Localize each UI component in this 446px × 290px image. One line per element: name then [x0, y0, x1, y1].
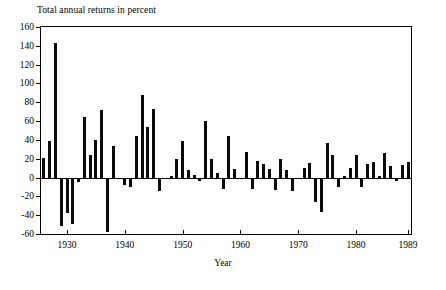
- plot-area: 160140120100806040200-20-40-601930194019…: [40, 26, 412, 235]
- bar: [395, 178, 398, 182]
- y-tick-mark: [36, 196, 41, 197]
- y-tick-label: 140: [20, 41, 34, 51]
- x-tick-mark: [298, 230, 299, 235]
- y-tick-mark: [36, 234, 41, 235]
- y-tick-label: 60: [25, 116, 35, 126]
- bar: [320, 178, 323, 213]
- x-tick-mark: [183, 230, 184, 235]
- y-tick-mark: [36, 121, 41, 122]
- bar: [187, 170, 190, 178]
- y-tick-label: -60: [21, 229, 34, 239]
- y-tick-mark: [36, 178, 41, 179]
- bar: [355, 155, 358, 178]
- chart-figure: Total annual returns in percent 16014012…: [0, 0, 446, 290]
- y-tick-mark: [36, 215, 41, 216]
- bar: [343, 176, 346, 178]
- bar: [118, 178, 121, 180]
- bar: [146, 127, 149, 178]
- bar: [337, 178, 340, 187]
- y-tick-label: 100: [20, 78, 34, 88]
- bar: [181, 141, 184, 178]
- bar: [291, 178, 294, 191]
- bar: [383, 153, 386, 177]
- x-axis-label: Year: [0, 258, 446, 268]
- bar: [158, 178, 161, 191]
- bar: [285, 170, 288, 178]
- y-tick-mark: [36, 159, 41, 160]
- zero-baseline: [41, 178, 411, 179]
- bar: [256, 161, 259, 178]
- x-tick-label: 1970: [289, 240, 308, 250]
- bar: [326, 143, 329, 178]
- y-tick-label: 20: [25, 154, 35, 164]
- x-tick-label: 1940: [115, 240, 134, 250]
- bar: [262, 164, 265, 177]
- bar: [233, 169, 236, 177]
- bar: [360, 178, 363, 187]
- y-tick-label: 0: [29, 173, 34, 183]
- y-tick-label: 40: [25, 135, 35, 145]
- bar: [83, 117, 86, 177]
- bar: [268, 169, 271, 177]
- bar: [60, 178, 63, 226]
- y-tick-mark: [36, 65, 41, 66]
- bar: [210, 159, 213, 178]
- x-tick-label: 1950: [173, 240, 192, 250]
- bar: [77, 178, 80, 183]
- y-tick-mark: [36, 46, 41, 47]
- bar: [135, 136, 138, 177]
- bar: [303, 168, 306, 177]
- y-tick-mark: [36, 140, 41, 141]
- bar: [193, 175, 196, 178]
- bar: [89, 155, 92, 178]
- bar: [366, 164, 369, 177]
- x-tick-mark: [356, 230, 357, 235]
- bar: [152, 109, 155, 178]
- bar-series: [41, 27, 411, 234]
- chart-title: Total annual returns in percent: [37, 5, 156, 15]
- x-tick-label: 1989: [399, 240, 418, 250]
- bar: [141, 95, 144, 178]
- bar: [94, 140, 97, 178]
- bar: [378, 176, 381, 178]
- bar: [372, 162, 375, 178]
- bar: [71, 178, 74, 224]
- bar: [349, 168, 352, 177]
- bar: [106, 178, 109, 233]
- bar: [308, 163, 311, 177]
- y-tick-label: 80: [25, 97, 35, 107]
- bar: [123, 178, 126, 186]
- bar: [227, 136, 230, 177]
- bar: [129, 178, 132, 187]
- x-tick-mark: [67, 230, 68, 235]
- y-tick-label: 160: [20, 22, 34, 32]
- bar: [100, 110, 103, 178]
- y-tick-label: -40: [21, 210, 34, 220]
- bar: [66, 178, 69, 214]
- y-tick-mark: [36, 102, 41, 103]
- x-tick-mark: [125, 230, 126, 235]
- x-tick-label: 1980: [347, 240, 366, 250]
- x-tick-mark: [408, 230, 409, 235]
- bar: [216, 173, 219, 178]
- y-tick-label: -20: [21, 191, 34, 201]
- y-tick-mark: [36, 27, 41, 28]
- bar: [239, 178, 242, 179]
- bar: [204, 121, 207, 177]
- bar: [389, 166, 392, 177]
- bar: [198, 178, 201, 182]
- bar: [175, 159, 178, 178]
- x-tick-mark: [240, 230, 241, 235]
- x-tick-label: 1930: [58, 240, 77, 250]
- bar: [170, 176, 173, 178]
- bar: [251, 178, 254, 189]
- bar: [401, 165, 404, 177]
- bar: [245, 152, 248, 177]
- bar: [331, 155, 334, 178]
- bar: [164, 178, 167, 179]
- bar: [112, 146, 115, 177]
- bar: [407, 162, 410, 177]
- bar: [42, 158, 45, 178]
- bar: [48, 141, 51, 178]
- bar: [222, 178, 225, 189]
